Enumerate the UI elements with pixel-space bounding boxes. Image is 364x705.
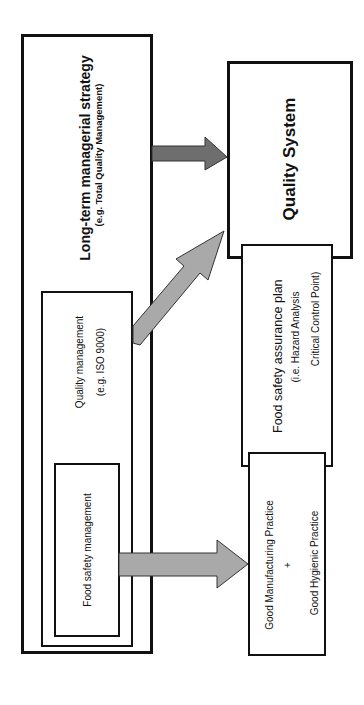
gmp-line2: Good Hygienic Practice — [308, 493, 322, 633]
quality-management-title: Quality management — [73, 302, 87, 422]
arrow-strategy-to-quality-system — [152, 137, 227, 170]
arrow-quality-management-to-quality-system — [133, 231, 224, 345]
gmp-plus: + — [281, 555, 295, 575]
quality-system-title: Quality System — [278, 89, 302, 229]
quality-management-subtitle: (e.g. ISO 9000) — [94, 302, 108, 422]
arrow-food-safety-to-gmp — [119, 540, 248, 588]
long-term-strategy-subtitle: (e.g. Total Quality Management) — [92, 55, 106, 255]
food-safety-plan-title: Food safety assurance plan — [270, 283, 286, 433]
food-safety-plan-line3: Critical Control Point) — [309, 259, 323, 379]
gmp-line1: Good Manufacturing Practice — [263, 495, 277, 635]
food-safety-management-title: Food safety management — [81, 485, 95, 615]
food-safety-plan-line2: (i.e. Hazard Analysis — [289, 277, 303, 397]
